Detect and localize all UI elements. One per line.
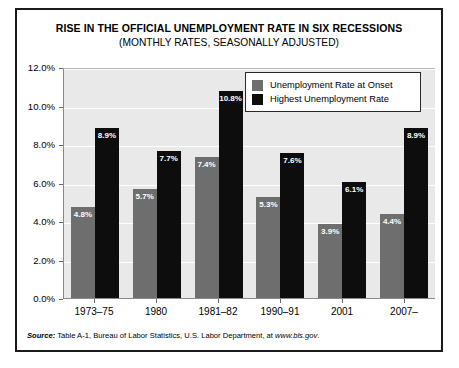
legend-item-label: Highest Unemployment Rate [270,94,389,105]
x-tick-mark [156,299,157,303]
bar-highest[interactable]: 8.9% [95,128,119,299]
chart-figure: RISE IN THE OFFICIAL UNEMPLOYMENT RATE I… [15,8,443,352]
x-tick-label: 1973–75 [63,306,125,318]
bar-value-label: 4.8% [71,210,95,219]
x-tick-label: 2007– [373,306,435,318]
y-tick-label: 0.0% [0,294,55,304]
source-label: Source: [27,331,55,340]
bar-onset[interactable]: 7.4% [195,157,219,299]
x-axis-group: 1980 [125,299,187,323]
x-tick-mark [94,299,95,303]
y-tick-label: 12.0% [0,63,55,73]
x-tick-label: 2001 [311,306,373,318]
legend-item-highest: Highest Unemployment Rate [252,92,413,106]
bar-onset[interactable]: 4.8% [71,207,95,299]
x-axis-group: 1981–82 [187,299,249,323]
bar-group: 5.7%7.7% [133,69,181,299]
x-axis-group: 2007– [373,299,435,323]
source-text: Table A-1, Bureau of Labor Statistics, U… [55,331,275,340]
legend-item-label: Unemployment Rate at Onset [270,80,392,91]
bar-value-label: 4.4% [380,217,404,226]
bar-value-label: 7.6% [280,156,304,165]
bar-highest[interactable]: 6.1% [342,182,366,299]
bar-highest[interactable]: 8.9% [404,128,428,299]
y-tick-mark [59,222,63,223]
bar-highest[interactable]: 7.7% [157,151,181,299]
bar-onset[interactable]: 5.3% [256,197,280,299]
chart-subtitle: (MONTHLY RATES, SEASONALLY ADJUSTED) [17,36,441,50]
bar-onset[interactable]: 3.9% [318,224,342,299]
title-block: RISE IN THE OFFICIAL UNEMPLOYMENT RATE I… [17,21,441,50]
page-title: RISE IN THE OFFICIAL UNEMPLOYMENT RATE I… [17,21,441,35]
bar-highest[interactable]: 10.8% [219,91,243,299]
y-tick-label: 2.0% [0,256,55,266]
bar-highest[interactable]: 7.6% [280,153,304,299]
y-tick-mark [59,184,63,185]
bar-value-label: 3.9% [318,227,342,236]
bar-value-label: 5.7% [133,192,157,201]
x-tick-label: 1981–82 [187,306,249,318]
bar-value-label: 10.8% [219,94,243,103]
legend-swatch-icon [252,94,263,105]
x-tick-label: 1980 [125,306,187,318]
x-axis-group: 1973–75 [63,299,125,323]
y-tick-label: 4.0% [0,217,55,227]
bar-group: 4.8%8.9% [71,69,119,299]
bar-value-label: 7.7% [157,154,181,163]
bar-value-label: 6.1% [342,185,366,194]
x-tick-mark [342,299,343,303]
bar-onset[interactable]: 5.7% [133,189,157,299]
x-tick-mark [404,299,405,303]
x-axis-group: 1990–91 [249,299,311,323]
y-tick-label: 6.0% [0,179,55,189]
bar-value-label: 7.4% [195,160,219,169]
y-tick-label: 8.0% [0,140,55,150]
source-note: Source: Table A-1, Bureau of Labor Stati… [27,331,435,341]
bar-onset[interactable]: 4.4% [380,214,404,299]
y-tick-mark [59,145,63,146]
source-period: . [317,331,319,340]
legend-swatch-icon [252,80,263,91]
x-tick-label: 1990–91 [249,306,311,318]
bar-group: 7.4%10.8% [195,69,243,299]
bar-value-label: 5.3% [256,200,280,209]
x-tick-mark [218,299,219,303]
y-tick-mark [59,261,63,262]
x-tick-mark [280,299,281,303]
y-tick-mark [59,107,63,108]
legend-item-onset: Unemployment Rate at Onset [252,78,413,92]
y-tick-mark [59,68,63,69]
x-axis: 1973–7519801981–821990–9120012007– [63,299,435,323]
x-axis-group: 2001 [311,299,373,323]
source-url: www.bls.gov [275,331,317,340]
bar-value-label: 8.9% [404,131,428,140]
chart-legend: Unemployment Rate at Onset Highest Unemp… [245,72,421,112]
y-tick-label: 10.0% [0,102,55,112]
bar-value-label: 8.9% [95,131,119,140]
